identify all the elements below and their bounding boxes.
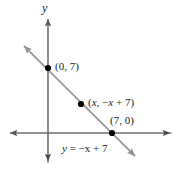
- y-axis-label: y: [42, 3, 47, 14]
- point-general: [78, 101, 84, 107]
- equation-rest: = −x + 7: [67, 142, 108, 154]
- point-y-intercept: [45, 65, 51, 71]
- label-equation: y = −x + 7: [62, 143, 108, 154]
- label-point-x-intercept: (7, 0): [110, 115, 134, 126]
- label-point-y-intercept: (0, 7): [55, 61, 79, 72]
- plus-seven-paren: + 7): [113, 96, 134, 108]
- point-x-intercept: [109, 130, 115, 136]
- label-point-general: (x, −x + 7): [88, 97, 134, 108]
- comma-minus: , −: [97, 96, 109, 108]
- graph-figure: y (0, 7) (x, −x + 7) (7, 0) y = −x + 7: [0, 0, 176, 174]
